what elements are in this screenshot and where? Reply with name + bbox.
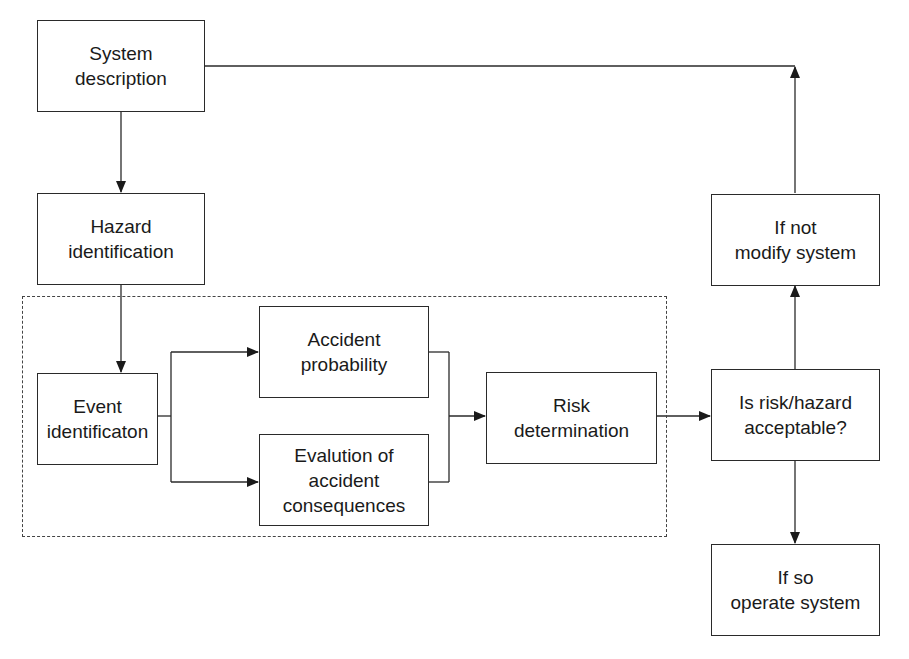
node-accident-probability: Accidentprobability [259, 306, 429, 398]
node-label: System [75, 41, 167, 66]
node-event-identification: Eventidentificaton [37, 373, 158, 465]
node-evaluation-consequences: Evalution ofaccidentconsequences [259, 434, 429, 526]
node-label: Event [47, 394, 148, 419]
node-label: identificaton [47, 419, 148, 444]
node-label: modify system [735, 240, 856, 265]
node-label: Accident [301, 327, 388, 352]
node-label: If not [735, 215, 856, 240]
node-risk-determination: Riskdetermination [486, 372, 657, 464]
node-label: Is risk/hazard [739, 390, 852, 415]
node-label: Risk [514, 393, 629, 418]
node-label: Evalution of [283, 443, 406, 468]
node-label: consequences [283, 493, 406, 518]
node-label: Hazard [68, 214, 174, 239]
node-label: operate system [731, 590, 861, 615]
node-label: probability [301, 352, 388, 377]
node-label: acceptable? [739, 415, 852, 440]
node-label: If so [731, 565, 861, 590]
node-system-description: Systemdescription [37, 20, 205, 112]
node-label: description [75, 66, 167, 91]
node-hazard-identification: Hazardidentification [37, 193, 205, 285]
node-operate-system: If sooperate system [711, 544, 880, 636]
node-label: determination [514, 418, 629, 443]
node-label: accident [283, 468, 406, 493]
node-label: identification [68, 239, 174, 264]
node-risk-acceptable: Is risk/hazardacceptable? [711, 369, 880, 461]
node-modify-system: If notmodify system [711, 194, 880, 286]
